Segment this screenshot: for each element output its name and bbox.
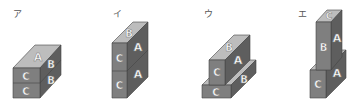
face-letter: A: [234, 54, 243, 67]
face-letter: A: [333, 32, 342, 45]
face-letter: C: [116, 53, 123, 64]
face-letter: B: [225, 42, 233, 53]
face-letter: A: [34, 51, 43, 64]
face-letter: C: [213, 67, 220, 78]
face-letter: C: [116, 80, 123, 91]
face-letter: C: [314, 79, 321, 90]
face-letter: B: [125, 28, 133, 39]
figure-label-a: ア: [13, 9, 22, 19]
figure-label-u: ウ: [204, 9, 213, 19]
face-letter: C: [22, 71, 29, 82]
face-letter: C: [22, 86, 29, 97]
figure-u: ウ B C A C B: [202, 9, 256, 98]
figure-a: ア A C C B B: [13, 9, 61, 98]
face-letter: A: [134, 68, 143, 81]
face-letter: A: [134, 41, 143, 54]
figure-i: イ B C C A A: [112, 9, 148, 98]
face-letter: B: [47, 59, 55, 70]
face-letter: B: [240, 74, 248, 85]
figure-e: エ C B A C A: [298, 9, 346, 98]
figure-label-e: エ: [298, 9, 307, 19]
face-letter: C: [212, 87, 219, 98]
block-figures-diagram: ア A C C B B イ B C C A A ウ: [0, 0, 351, 106]
face-letter: A: [333, 67, 342, 80]
figure-label-i: イ: [113, 9, 122, 19]
face-letter: C: [326, 11, 333, 21]
face-letter: B: [320, 42, 328, 53]
face-letter: B: [47, 75, 55, 86]
